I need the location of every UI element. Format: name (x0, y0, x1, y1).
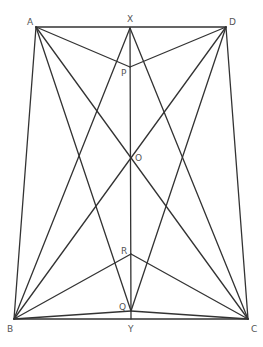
segment-cq (131, 311, 248, 319)
point-label-r: R (121, 246, 127, 256)
segment-bx (14, 28, 130, 319)
point-label-d: D (229, 17, 236, 27)
segment-dc (226, 27, 248, 319)
segment-ab (14, 27, 36, 319)
diagram-svg: AXDPORQBYC (0, 0, 263, 347)
point-label-x: X (127, 14, 133, 24)
geometry-diagram: AXDPORQBYC (0, 0, 263, 347)
segment-cr (131, 254, 248, 319)
point-label-p: P (121, 68, 127, 78)
point-label-b: B (7, 324, 13, 334)
segment-br (14, 254, 131, 319)
segment-cx (130, 28, 248, 319)
point-label-o: O (135, 153, 142, 163)
point-label-q: Q (119, 302, 126, 312)
point-label-c: C (251, 324, 257, 334)
point-labels: AXDPORQBYC (7, 14, 257, 334)
point-label-y: Y (127, 324, 134, 334)
segment-ac (36, 27, 248, 319)
segment-db (14, 27, 226, 319)
segment-bq (14, 311, 131, 319)
line-segments (14, 27, 248, 319)
segment-xy (130, 28, 131, 319)
point-label-a: A (27, 17, 34, 27)
